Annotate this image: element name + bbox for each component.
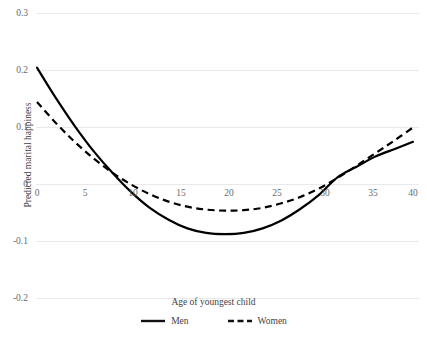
legend-swatch-dashed-icon xyxy=(227,316,253,326)
x-tick-label: 20 xyxy=(217,188,241,199)
legend-entry-men: Men xyxy=(140,316,188,326)
x-tick-label: 25 xyxy=(265,188,289,199)
y-tick-label: 0.3 xyxy=(0,8,28,19)
legend-label-women: Women xyxy=(258,316,287,326)
plot-area xyxy=(0,0,427,338)
gridlines xyxy=(36,14,419,299)
x-tick-label: 30 xyxy=(313,188,337,199)
x-tick-label: 40 xyxy=(401,188,425,199)
series-line-men xyxy=(37,68,413,235)
x-tick-label: 15 xyxy=(169,188,193,199)
legend-swatch-solid-icon xyxy=(140,316,166,326)
x-tick-label: 10 xyxy=(121,188,145,199)
x-axis-title: Age of youngest child xyxy=(0,297,427,307)
y-axis-title: Predicted marital happiness xyxy=(23,75,33,235)
y-tick-label: -0.1 xyxy=(0,236,28,247)
x-tick-label: 5 xyxy=(73,188,97,199)
legend-entry-women: Women xyxy=(227,316,287,326)
legend-label-men: Men xyxy=(171,316,188,326)
chart-figure: 0.3 0.2 0.1 0 -0.1 -0.2 0 5 10 15 20 25 … xyxy=(0,0,427,338)
x-tick-label: 35 xyxy=(361,188,385,199)
chart-legend: Men Women xyxy=(0,316,427,326)
